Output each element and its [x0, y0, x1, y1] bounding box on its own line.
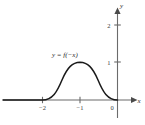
y-tick-label-1: 1	[107, 59, 110, 66]
graph-figure: x y 1 2 −2 −1 0 y = f(−x)	[0, 0, 145, 125]
x-tick-label-minus-1: −1	[77, 104, 84, 111]
y-tick-label-2: 2	[107, 22, 110, 29]
x-axis-label: x	[136, 97, 141, 105]
x-tick-label-minus-2: −2	[39, 104, 46, 111]
curve-equation-label: y = f(−x)	[51, 51, 78, 59]
y-axis-label: y	[119, 2, 124, 10]
x-tick-label-origin: 0	[110, 104, 113, 111]
coordinate-plot: x y 1 2 −2 −1 0 y = f(−x)	[0, 0, 145, 125]
function-curve	[3, 62, 118, 100]
